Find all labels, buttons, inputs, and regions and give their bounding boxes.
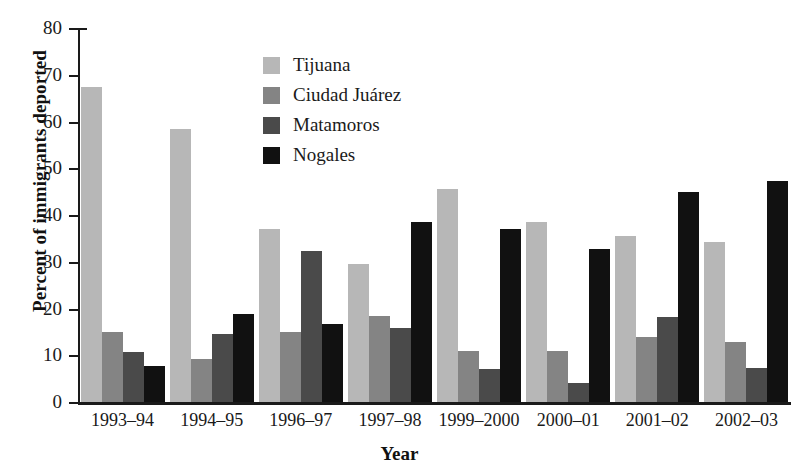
y-axis-tick: 20 xyxy=(69,309,80,311)
bar xyxy=(678,192,699,402)
bar xyxy=(615,236,636,402)
bar-group xyxy=(437,28,521,402)
y-axis-tick: 80 xyxy=(69,28,80,30)
bar xyxy=(547,351,568,402)
bar xyxy=(301,251,322,402)
legend: TijuanaCiudad JuárezMatamorosNogales xyxy=(263,50,401,170)
bar xyxy=(191,359,212,402)
bar xyxy=(390,328,411,402)
bar xyxy=(767,181,788,402)
x-axis-line xyxy=(78,402,791,405)
bar xyxy=(259,229,280,402)
bar xyxy=(411,222,432,402)
y-axis-tick: 30 xyxy=(69,262,80,264)
legend-label: Tijuana xyxy=(293,54,350,76)
bar xyxy=(369,316,390,402)
bar xyxy=(589,249,610,402)
y-axis-tick: 60 xyxy=(69,122,80,124)
y-axis-tick-label: 0 xyxy=(53,391,63,413)
bar xyxy=(657,317,678,402)
bar xyxy=(704,242,725,402)
y-axis-title: Percent of immigrants deported xyxy=(29,0,51,381)
legend-swatch-icon xyxy=(263,87,280,104)
x-axis-tick-label: 2000–01 xyxy=(524,410,613,431)
legend-item: Nogales xyxy=(263,140,401,170)
x-axis-tick-label: 2001–02 xyxy=(613,410,702,431)
legend-swatch-icon xyxy=(263,117,280,134)
bar xyxy=(636,337,657,402)
bar-group xyxy=(704,28,788,402)
x-axis-tick-label: 1993–94 xyxy=(78,410,167,431)
y-axis-tick: 70 xyxy=(69,75,80,77)
bar xyxy=(233,314,254,402)
legend-label: Ciudad Juárez xyxy=(293,84,401,106)
y-axis-tick: 10 xyxy=(69,355,80,357)
bar xyxy=(479,369,500,402)
bar-chart: Percent of immigrants deported 010203040… xyxy=(0,0,799,476)
x-axis-tick-label: 1994–95 xyxy=(167,410,256,431)
y-axis-tick-label: 30 xyxy=(43,251,62,273)
bar xyxy=(348,264,369,402)
y-axis-tick: 40 xyxy=(69,215,80,217)
bar-group xyxy=(81,28,165,402)
bar xyxy=(144,366,165,402)
bar xyxy=(725,342,746,402)
bar-group xyxy=(170,28,254,402)
bar xyxy=(437,189,458,402)
y-axis-tick-label: 60 xyxy=(43,111,62,133)
bar xyxy=(526,222,547,402)
x-axis-tick-label: 2002–03 xyxy=(702,410,791,431)
bar xyxy=(746,368,767,402)
bar xyxy=(81,87,102,402)
bar xyxy=(458,351,479,402)
legend-label: Matamoros xyxy=(293,114,380,136)
legend-item: Ciudad Juárez xyxy=(263,80,401,110)
y-axis-tick-label: 70 xyxy=(43,64,62,86)
x-axis-tick-label: 1997–98 xyxy=(345,410,434,431)
bar xyxy=(123,352,144,402)
bar xyxy=(568,383,589,402)
y-axis-tick: 0 xyxy=(69,402,80,404)
bar xyxy=(500,229,521,402)
legend-swatch-icon xyxy=(263,57,280,74)
bar-group xyxy=(526,28,610,402)
y-axis-tick: 50 xyxy=(69,168,80,170)
x-axis-title: Year xyxy=(0,443,799,465)
y-axis-tick-label: 10 xyxy=(43,344,62,366)
x-axis-tick-label: 1996–97 xyxy=(256,410,345,431)
legend-item: Tijuana xyxy=(263,50,401,80)
legend-item: Matamoros xyxy=(263,110,401,140)
x-axis-tick-label: 1999–2000 xyxy=(435,410,524,431)
bar-group xyxy=(615,28,699,402)
bar xyxy=(322,324,343,402)
bar xyxy=(212,334,233,402)
bar xyxy=(102,332,123,402)
legend-label: Nogales xyxy=(293,144,355,166)
bar xyxy=(280,332,301,402)
plot-area: 01020304050607080 1993–941994–951996–971… xyxy=(78,28,791,402)
y-axis-tick-label: 80 xyxy=(43,17,62,39)
y-axis-tick-label: 40 xyxy=(43,204,62,226)
legend-swatch-icon xyxy=(263,147,280,164)
y-axis-tick-label: 50 xyxy=(43,157,62,179)
bar xyxy=(170,129,191,402)
y-axis-tick-label: 20 xyxy=(43,298,62,320)
